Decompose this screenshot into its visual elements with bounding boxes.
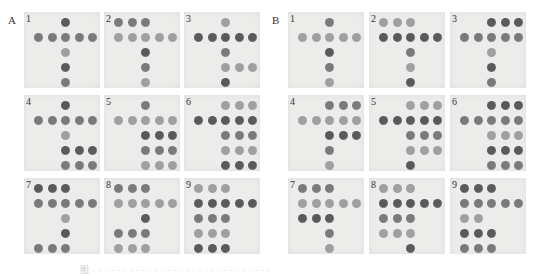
blot-dot (194, 214, 203, 223)
blot-dot (61, 18, 70, 27)
blot-dot (75, 33, 84, 42)
blot-dot (298, 214, 307, 223)
membrane-a5: 5 (104, 95, 180, 171)
blot-dot (514, 131, 523, 140)
blot-dot (352, 101, 361, 110)
blot-dot (325, 146, 334, 155)
blot-dot (34, 244, 43, 253)
blot-dot (128, 116, 137, 125)
blot-dot (61, 33, 70, 42)
blot-dot (339, 131, 348, 140)
blot-dot (406, 146, 415, 155)
blot-dot (61, 48, 70, 57)
blot-dot (61, 116, 70, 125)
blot-dot (379, 214, 388, 223)
blot-dot (141, 146, 150, 155)
blot-dot (312, 199, 321, 208)
blot-dot (141, 199, 150, 208)
blot-dot (208, 184, 217, 193)
blot-dot (420, 146, 429, 155)
blot-dot (61, 131, 70, 140)
membrane-number: 4 (290, 96, 295, 107)
blot-dot (61, 229, 70, 238)
blot-dot (474, 229, 483, 238)
blot-dot (208, 116, 217, 125)
blot-dot (514, 161, 523, 170)
blot-dot (420, 33, 429, 42)
membrane-b1: 1 (288, 12, 364, 88)
blot-dot (141, 184, 150, 193)
membrane-a9: 9 (184, 178, 260, 254)
blot-dot (61, 199, 70, 208)
blot-dot (194, 229, 203, 238)
blot-dot (325, 101, 334, 110)
blot-dot (128, 199, 137, 208)
membrane-a3: 3 (184, 12, 260, 88)
blot-dot (433, 101, 442, 110)
blot-dot (248, 161, 257, 170)
blot-dot (406, 78, 415, 87)
blot-dot (141, 78, 150, 87)
blot-dot (88, 33, 97, 42)
membrane-b5: 5 (369, 95, 445, 171)
blot-dot (141, 229, 150, 238)
blot-dot (420, 116, 429, 125)
blot-dot (141, 63, 150, 72)
blot-dot (194, 244, 203, 253)
blot-dot (208, 229, 217, 238)
blot-dot (235, 131, 244, 140)
blot-dot (128, 33, 137, 42)
blot-dot (114, 244, 123, 253)
blot-dot (128, 18, 137, 27)
blot-dot (61, 214, 70, 223)
blot-dot (460, 244, 469, 253)
blot-dot (325, 131, 334, 140)
membrane-number: 3 (186, 13, 191, 24)
blot-dot (487, 48, 496, 57)
blot-dot (168, 33, 177, 42)
blot-dot (487, 184, 496, 193)
blot-dot (114, 184, 123, 193)
membrane-number: 1 (26, 13, 31, 24)
blot-dot (221, 33, 230, 42)
blot-dot (298, 33, 307, 42)
blot-dot (141, 214, 150, 223)
blot-dot (487, 244, 496, 253)
blot-dot (235, 161, 244, 170)
blot-dot (235, 101, 244, 110)
blot-dot (406, 161, 415, 170)
blot-dot (487, 229, 496, 238)
blot-dot (460, 214, 469, 223)
blot-dot (487, 161, 496, 170)
blot-dot (352, 131, 361, 140)
blot-dot (433, 199, 442, 208)
blot-dot (88, 199, 97, 208)
panel-label-a: A (8, 14, 16, 26)
blot-dot (34, 184, 43, 193)
membrane-number: 6 (186, 96, 191, 107)
blot-dot (460, 33, 469, 42)
blot-dot (235, 116, 244, 125)
membrane-number: 5 (371, 96, 376, 107)
blot-dot (325, 161, 334, 170)
blot-dot (514, 101, 523, 110)
blot-dot (88, 116, 97, 125)
blot-dot (474, 244, 483, 253)
blot-dot (379, 184, 388, 193)
blot-dot (248, 146, 257, 155)
blot-dot (379, 229, 388, 238)
blot-dot (141, 48, 150, 57)
membrane-b3: 3 (450, 12, 526, 88)
membrane-b9: 9 (450, 178, 526, 254)
blot-dot (221, 18, 230, 27)
blot-dot (61, 161, 70, 170)
blot-dot (514, 33, 523, 42)
blot-dot (248, 116, 257, 125)
blot-dot (168, 146, 177, 155)
blot-dot (155, 146, 164, 155)
blot-dot (406, 214, 415, 223)
membrane-number: 6 (452, 96, 457, 107)
blot-dot (61, 146, 70, 155)
membrane-number: 5 (106, 96, 111, 107)
membrane-a1: 1 (24, 12, 100, 88)
